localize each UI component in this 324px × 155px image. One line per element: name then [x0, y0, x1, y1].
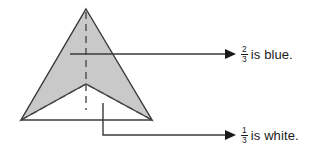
fraction-numerator: 1 [241, 126, 248, 135]
arrowhead-white [225, 130, 236, 140]
fraction-numerator: 2 [241, 45, 248, 54]
callout-text-white: is white. [251, 128, 299, 143]
fraction-two-thirds: 2 3 [241, 45, 248, 64]
callout-label-white: 1 3 is white. [241, 126, 299, 145]
fraction-one-third: 1 3 [241, 126, 248, 145]
fraction-denominator: 3 [241, 135, 248, 145]
fraction-denominator: 3 [241, 54, 248, 64]
fraction-diagram-figure: 2 3 is blue. 1 3 is white. [0, 0, 324, 155]
callout-label-blue: 2 3 is blue. [241, 45, 293, 64]
leader-line-white [103, 103, 232, 135]
callout-text-blue: is blue. [251, 47, 293, 62]
arrowhead-blue [225, 49, 236, 59]
